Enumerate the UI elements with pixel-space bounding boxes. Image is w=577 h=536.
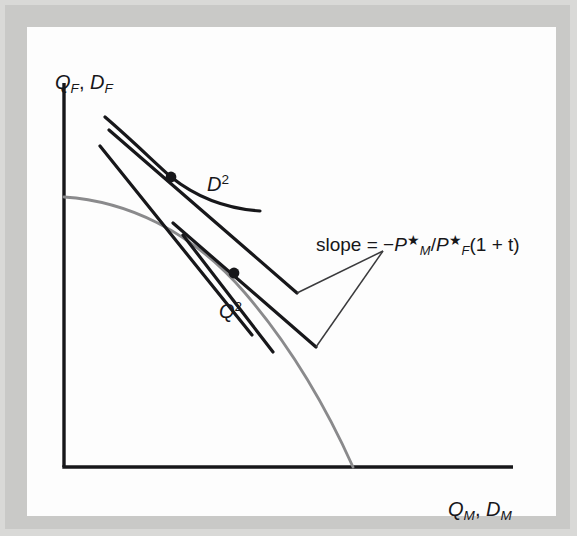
slope-annotation-prefix: slope = − xyxy=(316,234,394,255)
budget-line-through-d2 xyxy=(109,130,297,293)
axis-label-y-base2: D xyxy=(90,71,104,93)
slope-pointer-lines xyxy=(297,251,383,347)
axis-label-x-sub1: M xyxy=(464,508,475,523)
point-label-d2-base: D xyxy=(207,173,221,195)
point-label-d2: D2 xyxy=(207,172,229,196)
production-possibility-frontier-curve xyxy=(64,197,353,467)
slope-annotation-numerator-sub: M xyxy=(420,243,431,258)
axis-label-y-separator: , xyxy=(79,71,90,93)
axis-label-y: QF, DF xyxy=(55,71,113,96)
point-label-d2-superscript: 2 xyxy=(221,172,229,187)
axis-label-x-sub2: M xyxy=(500,508,511,523)
slope-pointer-lower xyxy=(316,251,383,347)
diagram-plot-area xyxy=(27,27,556,516)
axis-label-x-separator: , xyxy=(475,498,486,520)
slope-annotation-numerator-star: ★ xyxy=(407,233,420,248)
slope-annotation: slope = −P★M/P★F(1 + t) xyxy=(316,232,520,258)
marker-point-q2 xyxy=(229,268,240,279)
slope-annotation-denominator-base: P xyxy=(436,234,449,255)
indifference-curve xyxy=(105,117,260,211)
axis-label-y-base1: Q xyxy=(55,71,71,93)
point-label-q2: Q2 xyxy=(219,299,242,323)
figure-canvas: QF, DF QM, DM D2 Q2 slope = −P★M/P★F(1 +… xyxy=(27,27,556,516)
axis-label-y-sub1: F xyxy=(71,81,79,96)
marker-point-d2 xyxy=(166,172,177,183)
domestic-price-line-through-q2 xyxy=(173,223,316,347)
point-label-q2-base: Q xyxy=(219,300,235,322)
axis-label-x-base2: D xyxy=(486,498,500,520)
axis-label-x: QM, DM xyxy=(448,498,512,523)
axis-label-x-base1: Q xyxy=(448,498,464,520)
slope-annotation-denominator-star: ★ xyxy=(449,233,462,248)
figure-outer-frame: QF, DF QM, DM D2 Q2 slope = −P★M/P★F(1 +… xyxy=(0,0,577,536)
figure-inner-border: QF, DF QM, DM D2 Q2 slope = −P★M/P★F(1 +… xyxy=(5,5,570,529)
axis-label-y-sub2: F xyxy=(104,81,112,96)
slope-annotation-numerator-base: P xyxy=(394,234,407,255)
tangent-line-through-q2 xyxy=(183,235,273,352)
slope-annotation-suffix: (1 + t) xyxy=(469,234,519,255)
point-label-q2-superscript: 2 xyxy=(235,299,243,314)
